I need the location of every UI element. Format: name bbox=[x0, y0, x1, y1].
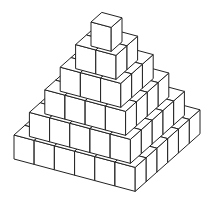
pyramid-figure bbox=[0, 0, 214, 203]
cube-pyramid-drawing bbox=[0, 0, 214, 203]
